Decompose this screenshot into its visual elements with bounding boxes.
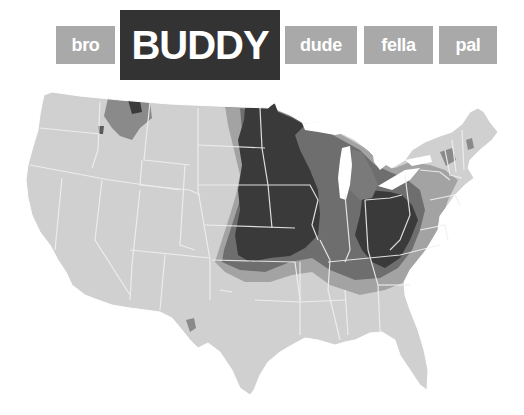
us-county-map xyxy=(0,0,524,415)
map-shading xyxy=(0,80,524,415)
